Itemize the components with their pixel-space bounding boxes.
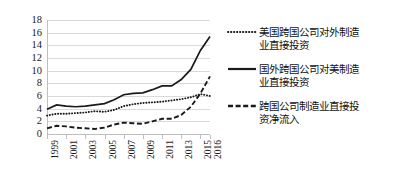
series-line-dashed <box>47 76 210 129</box>
legend-item-net-fdi-inflow: 跨国公司制造业直接投资净流入 <box>228 100 408 125</box>
series-line-dotted <box>47 94 210 116</box>
legend-label: 美国跨国公司对外制造业直接投资 <box>259 26 363 51</box>
x-tick-mark <box>210 135 211 139</box>
legend-label: 跨国公司制造业直接投资净流入 <box>259 100 363 125</box>
x-tick-mark <box>85 135 86 139</box>
x-tick-mark <box>66 135 67 139</box>
x-tick-mark <box>200 135 201 139</box>
dotted-line-icon <box>228 29 256 42</box>
solid-line-icon <box>228 66 256 79</box>
x-tick-mark <box>105 135 106 139</box>
x-tick-mark <box>181 135 182 139</box>
x-tick-mark <box>47 135 48 139</box>
x-tick-mark <box>124 135 125 139</box>
dashed-line-icon <box>228 103 256 116</box>
legend-label: 国外跨国公司对美制造业直接投资 <box>259 63 363 88</box>
legend-item-foreign-inward-fdi: 国外跨国公司对美制造业直接投资 <box>228 63 408 88</box>
chart-legend: 美国跨国公司对外制造业直接投资 国外跨国公司对美制造业直接投资 跨国公司制造业直… <box>228 26 408 137</box>
x-tick-mark <box>143 135 144 139</box>
legend-item-us-outward-fdi: 美国跨国公司对外制造业直接投资 <box>228 26 408 51</box>
x-tick-mark <box>162 135 163 139</box>
chart-container: 024681012141618 199920012003200520072009… <box>0 0 408 180</box>
